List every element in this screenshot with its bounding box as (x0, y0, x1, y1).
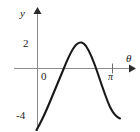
y-axis-label: y (20, 8, 25, 19)
y-axis-arrowhead (34, 7, 42, 14)
y-tick-label-2: 2 (23, 38, 29, 49)
x-axis-arrowhead (129, 65, 136, 73)
theta-axis-label: θ (126, 53, 131, 64)
x-tick-label-pi: π (108, 72, 113, 82)
curve-path (37, 42, 121, 130)
graph-figure: y θ 2 0 -4 π (0, 0, 140, 132)
y-tick-label-neg4: -4 (16, 110, 25, 121)
origin-label: 0 (41, 71, 47, 82)
